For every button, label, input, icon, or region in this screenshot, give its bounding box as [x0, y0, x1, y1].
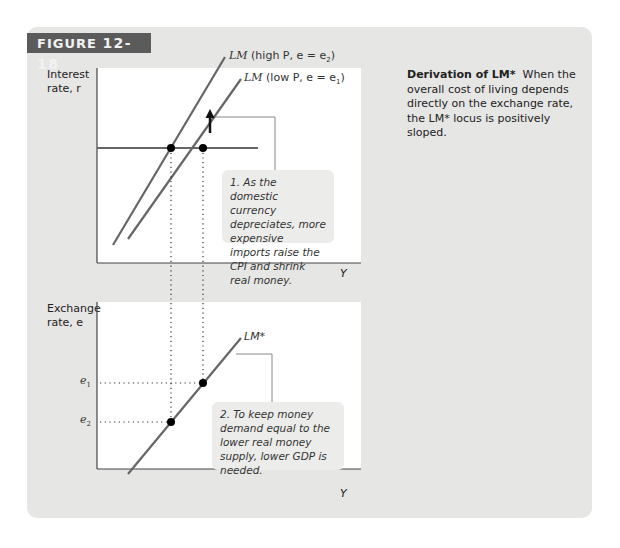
lm-low-label-main: LM: [244, 71, 263, 84]
lm-low-label-close: ): [341, 71, 345, 84]
lm-high-label-main: LM: [229, 49, 248, 62]
tick-e2-sub: 2: [87, 420, 91, 428]
intersection-dot-low: [199, 144, 207, 152]
lm-low-label-rest: (low P, e = e: [263, 71, 336, 84]
tick-e1-sub: 1: [87, 381, 91, 389]
callout-1: 1. As the domestic currency depreciates,…: [222, 170, 334, 243]
callout-2-connector: [236, 354, 272, 402]
callout-1-connector: [215, 117, 275, 170]
lm-high-label-close: ): [331, 49, 335, 62]
lm-star-dot-e1: [199, 379, 207, 387]
figure-caption: Derivation of LM* When the overall cost …: [407, 68, 582, 141]
tick-e2: e2: [80, 413, 91, 428]
lm-high-label: LM (high P, e = e2): [229, 49, 335, 64]
caption-title: Derivation of LM*: [407, 68, 516, 81]
top-x-axis-label: Y: [340, 267, 347, 281]
lm-high-label-rest: (high P, e = e: [248, 49, 327, 62]
lm-star-label-text: LM*: [244, 330, 265, 343]
bottom-x-axis-label: Y: [340, 487, 347, 501]
tick-e1: e1: [80, 374, 91, 389]
shift-arrow-head-icon: [206, 109, 215, 118]
lm-star-dot-e2: [167, 418, 175, 426]
callout-2: 2. To keep money demand equal to the low…: [212, 402, 344, 470]
lm-low-label: LM (low P, e = e1): [244, 71, 345, 86]
lm-star-label: LM*: [244, 330, 265, 343]
intersection-dot-high: [167, 144, 175, 152]
